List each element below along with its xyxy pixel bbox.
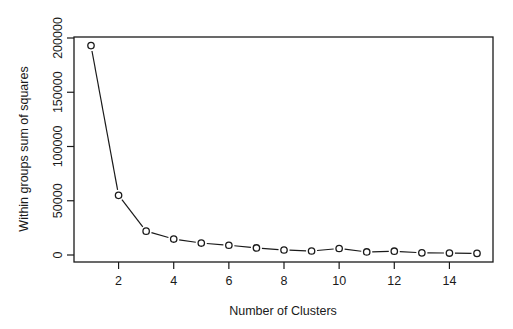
series-segment — [345, 249, 362, 251]
data-point-marker — [88, 42, 94, 48]
data-point-marker — [253, 245, 259, 251]
series-segment — [317, 249, 334, 251]
data-point-marker — [419, 250, 425, 256]
series-segment — [179, 240, 196, 242]
x-axis-label: Number of Clusters — [229, 304, 337, 318]
y-tick-label: 50000 — [51, 183, 65, 218]
data-point-marker — [281, 247, 287, 253]
data-point-marker — [308, 248, 314, 254]
series-segment — [234, 246, 251, 248]
series-segment — [92, 51, 118, 190]
data-point-marker — [336, 245, 342, 251]
y-tick-label: 150000 — [51, 71, 65, 113]
data-point-marker — [143, 228, 149, 234]
data-point-marker — [226, 242, 232, 248]
y-tick-label: 0 — [51, 251, 65, 258]
elbow-chart: 050000100000150000200000 2468101214 Numb… — [0, 0, 513, 329]
y-tick-label: 200000 — [51, 17, 65, 59]
data-point-marker — [364, 249, 370, 255]
y-axis-label: Within groups sum of squares — [17, 66, 31, 231]
y-axis: 050000100000150000200000 — [51, 17, 74, 258]
data-point-marker — [171, 236, 177, 242]
x-tick-label: 4 — [170, 274, 177, 288]
y-tick-label: 100000 — [51, 126, 65, 168]
x-tick-label: 6 — [225, 274, 232, 288]
x-tick-label: 10 — [332, 274, 346, 288]
data-point-marker — [198, 240, 204, 246]
x-tick-label: 12 — [387, 274, 401, 288]
data-series-line — [88, 42, 480, 256]
data-point-marker — [446, 250, 452, 256]
data-point-marker — [115, 192, 121, 198]
data-point-marker — [391, 248, 397, 254]
series-segment — [151, 233, 168, 238]
x-tick-label: 8 — [281, 274, 288, 288]
series-segment — [400, 252, 417, 253]
plot-area-frame — [74, 37, 493, 262]
x-tick-label: 2 — [115, 274, 122, 288]
x-tick-label: 14 — [442, 274, 456, 288]
series-segment — [122, 200, 143, 227]
series-segment — [289, 250, 306, 251]
series-segment — [262, 248, 279, 249]
series-segment — [207, 243, 224, 244]
x-axis: 2468101214 — [115, 262, 456, 288]
data-point-marker — [474, 250, 480, 256]
